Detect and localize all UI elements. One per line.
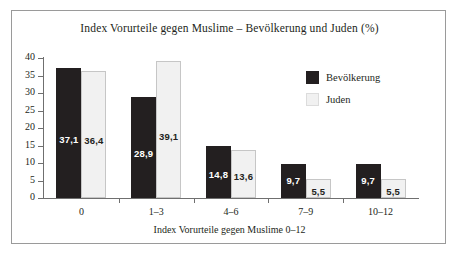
legend-swatch-juden	[306, 93, 319, 106]
bar-group: 14,813,6	[206, 58, 256, 198]
x-axis-tick-mark	[194, 198, 195, 203]
y-axis-tick-label: 10	[25, 156, 35, 167]
x-axis-line	[43, 198, 419, 199]
x-axis-category-label: 4–6	[224, 206, 239, 217]
y-axis-tick: 0	[38, 198, 44, 199]
bar-juden: 39,1	[156, 61, 181, 198]
x-axis-tick-mark	[268, 198, 269, 203]
chart-screenshot: Index Vorurteile gegen Muslime – Bevölke…	[0, 0, 459, 256]
bar-value-label: 5,5	[386, 186, 400, 197]
x-axis-title: Index Vorurteile gegen Muslime 0–12	[0, 224, 459, 235]
bar-value-label: 37,1	[59, 134, 78, 145]
bar-group: 37,136,4	[56, 58, 106, 198]
bar-juden: 5,5	[306, 179, 331, 198]
y-axis-tick-label: 35	[25, 69, 35, 80]
legend-label-juden: Juden	[326, 94, 351, 105]
y-axis-tick-label: 30	[25, 86, 35, 97]
y-axis-tick-label: 40	[25, 51, 35, 62]
bar-bev-lkerung: 37,1	[56, 68, 81, 198]
bar-value-label: 9,7	[361, 175, 375, 186]
x-axis-category-label: 1–3	[149, 206, 164, 217]
x-axis-category-label: 0	[79, 206, 84, 217]
bar-bev-lkerung: 9,7	[356, 164, 381, 198]
bar-bev-lkerung: 9,7	[281, 164, 306, 198]
y-axis-tick-label: 20	[25, 121, 35, 132]
y-axis-tick-label: 0	[30, 191, 35, 202]
chart-legend: Bevölkerung Juden	[306, 66, 426, 110]
chart-title: Index Vorurteile gegen Muslime – Bevölke…	[0, 22, 459, 34]
legend-item-bevoelkerung: Bevölkerung	[306, 66, 426, 88]
bar-juden: 5,5	[381, 179, 406, 198]
bar-bev-lkerung: 28,9	[131, 97, 156, 198]
bar-value-label: 14,8	[209, 169, 228, 180]
x-axis-category-label: 7–9	[298, 206, 313, 217]
legend-item-juden: Juden	[306, 88, 426, 110]
legend-label-bevoelkerung: Bevölkerung	[326, 72, 380, 83]
x-axis-tick-mark	[343, 198, 344, 203]
bar-value-label: 28,9	[134, 148, 153, 159]
bar-value-label: 13,6	[234, 171, 253, 182]
y-axis-tick-label: 15	[25, 139, 35, 150]
bar-value-label: 5,5	[311, 186, 325, 197]
bar-value-label: 39,1	[159, 131, 178, 142]
x-axis-category-label: 10–12	[368, 206, 393, 217]
bar-juden: 36,4	[81, 71, 106, 198]
bar-value-label: 36,4	[84, 135, 103, 146]
x-axis-tick-mark	[119, 198, 120, 203]
bar-value-label: 9,7	[286, 175, 300, 186]
y-axis-tick-mark	[38, 198, 44, 199]
y-axis-tick-label: 5	[30, 174, 35, 185]
y-axis-tick-label: 25	[25, 104, 35, 115]
legend-swatch-bevoelkerung	[306, 71, 319, 84]
bar-group: 28,939,1	[131, 58, 181, 198]
bar-bev-lkerung: 14,8	[206, 146, 231, 198]
bar-juden: 13,6	[231, 150, 256, 198]
